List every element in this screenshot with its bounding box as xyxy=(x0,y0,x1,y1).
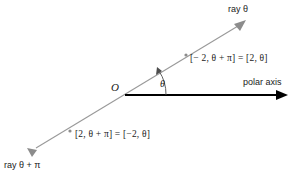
polar-ray-diagram: ray θ ray θ + π polar axis [− 2, θ + π] … xyxy=(0,0,300,176)
angle-theta-label: θ xyxy=(160,79,165,89)
ray-theta-arrowhead-icon xyxy=(234,20,246,31)
ray-theta-label: ray θ xyxy=(228,5,248,14)
upper-point-label: [− 2, θ + π] = [2, θ] xyxy=(190,54,268,64)
ray-theta-plus-pi-arrowhead-icon xyxy=(27,148,37,157)
lower-point-label: [2, θ + π] = [−2, θ] xyxy=(75,130,150,140)
polar-axis-label: polar axis xyxy=(243,78,282,87)
diagram-canvas xyxy=(0,0,300,176)
polar-axis-arrowhead-icon xyxy=(276,90,288,100)
origin-label: O xyxy=(111,82,119,93)
ray-theta-plus-pi-label: ray θ + π xyxy=(4,161,40,170)
lower-point-marker xyxy=(68,129,71,132)
upper-point-marker xyxy=(184,53,187,56)
